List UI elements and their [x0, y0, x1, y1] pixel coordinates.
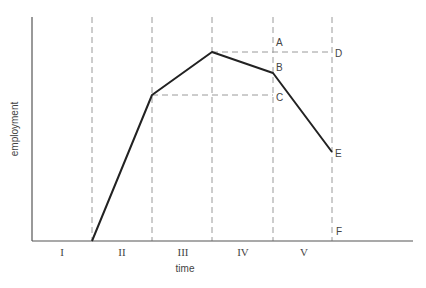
label-b: B	[276, 62, 283, 73]
label-d: D	[335, 48, 342, 59]
label-a: A	[276, 37, 283, 48]
employment-phase-diagram: A B C D E F I II III IV V time employmen…	[0, 0, 426, 288]
phase-label-1: I	[60, 246, 64, 258]
phase-label-3: III	[178, 246, 189, 258]
phase-label-2: II	[118, 246, 126, 258]
x-axis-title: time	[176, 263, 195, 274]
y-axis-title: employment	[9, 102, 20, 157]
label-f: F	[336, 226, 342, 237]
phase-label-5: V	[300, 246, 308, 258]
phase-label-4: IV	[237, 246, 249, 258]
phase-boundaries	[92, 17, 332, 241]
label-c: C	[276, 92, 283, 103]
axes	[32, 17, 413, 241]
label-e: E	[335, 148, 342, 159]
